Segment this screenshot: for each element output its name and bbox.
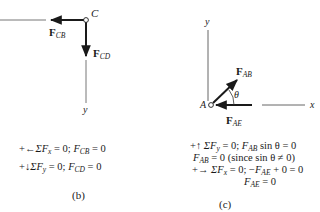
equation-b-2: +↓ΣFy = 0; FCD = 0 [19, 162, 101, 174]
y-axis-label-c: y [205, 17, 209, 27]
equation-c-1: +↑ ΣFy = 0; FAB sin θ = 0 [190, 141, 296, 153]
force-cd-label: FCD [93, 48, 110, 61]
figure-c-diagram [208, 30, 305, 107]
theta-label: θ [234, 90, 239, 100]
joint-c-node [84, 18, 89, 23]
y-axis-label-b: y [83, 105, 87, 115]
caption-b: (b) [72, 189, 85, 201]
force-cb-label: FCB [49, 27, 65, 40]
equation-c-2: FAB = 0 (since sin θ ≠ 0) [193, 153, 295, 165]
equation-c-4: FAE = 0 [244, 177, 276, 189]
joint-c-label: C [91, 8, 98, 19]
force-ab-label: FAB [236, 66, 252, 79]
equation-c-3: +→ ΣFx = 0; −FAE + 0 = 0 [192, 165, 303, 177]
joint-a-label: A [200, 100, 206, 110]
joint-a-node [209, 103, 214, 108]
equation-b-1: +←ΣFx = 0; FCB = 0 [19, 144, 106, 156]
figure-b-diagram [0, 18, 88, 103]
caption-c: (c) [219, 198, 231, 210]
x-axis-label-c: x [310, 100, 314, 110]
force-ae-label: FAE [226, 115, 242, 128]
